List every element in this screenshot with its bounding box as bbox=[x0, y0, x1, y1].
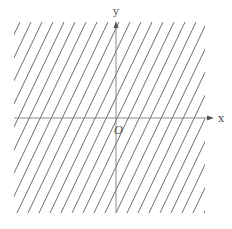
x-axis-label: x bbox=[218, 112, 225, 125]
hatch-line bbox=[0, 22, 9, 213]
y-axis-label: y bbox=[112, 5, 120, 18]
x-axis-arrow-icon bbox=[207, 116, 214, 121]
origin-label: O bbox=[114, 124, 123, 137]
coordinate-diagram: x y O bbox=[0, 0, 232, 229]
hatch-line bbox=[226, 22, 232, 213]
